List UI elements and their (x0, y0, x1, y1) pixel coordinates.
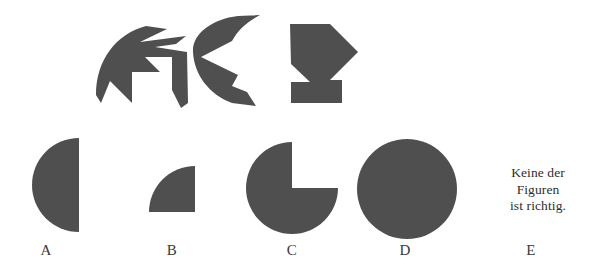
fragment-1-shape (96, 26, 188, 108)
figures-canvas (0, 0, 593, 269)
none-text-line-3: ist richtig. (489, 198, 587, 215)
none-text-line-2: Figuren (489, 182, 587, 199)
none-text-line-1: Keine der (489, 165, 587, 182)
fragment-3-shape (290, 24, 358, 103)
option-label-a[interactable]: A (31, 243, 61, 258)
option-a-figure[interactable] (32, 138, 79, 232)
option-label-c[interactable]: C (277, 243, 307, 258)
option-label-e[interactable]: E (516, 243, 546, 258)
option-label-b[interactable]: B (157, 243, 187, 258)
option-label-d[interactable]: D (390, 243, 420, 258)
worksheet-page: Keine der Figuren ist richtig. A B C D E (0, 0, 593, 269)
options-group (32, 138, 457, 239)
option-b-figure[interactable] (149, 166, 195, 212)
fragment-2-shape (193, 15, 260, 106)
none-of-the-above-text[interactable]: Keine der Figuren ist richtig. (489, 165, 587, 215)
stimulus-group (96, 15, 358, 108)
option-d-figure[interactable] (357, 139, 457, 239)
option-c-figure[interactable] (246, 142, 338, 234)
